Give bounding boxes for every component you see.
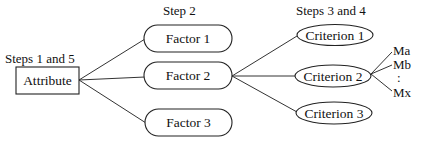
edge-attribute-factor-2 (79, 77, 145, 80)
edge-attribute-factor-1 (79, 39, 145, 80)
edge-factor-2-criterion-1 (232, 36, 297, 76)
factor-1-label: Factor 1 (166, 31, 211, 46)
criterion-node-2: Criterion 2 (295, 65, 371, 87)
measure-mb: Mb (393, 57, 411, 72)
hierarchy-diagram: Steps 1 and 5 Step 2 Steps 3 and 4 Attri… (0, 0, 426, 144)
step-label-criteria: Steps 3 and 4 (296, 3, 366, 18)
step-label-attribute: Steps 1 and 5 (5, 51, 75, 66)
edge-criterion-2-mb (371, 65, 392, 74)
edge-criterion-2-ma (371, 52, 392, 74)
criterion-1-label: Criterion 1 (306, 28, 365, 43)
measure-ellipsis: : (397, 70, 401, 85)
measure-ma: Ma (393, 43, 411, 58)
factor-node-2: Factor 2 (144, 62, 232, 89)
criterion-node-3: Criterion 3 (296, 102, 372, 124)
step-label-factors: Step 2 (163, 3, 196, 18)
edge-factor-2-criterion-3 (232, 76, 297, 112)
factor-2-label: Factor 2 (166, 68, 211, 83)
criterion-2-label: Criterion 2 (304, 69, 363, 84)
attribute-node: Attribute (16, 67, 79, 94)
edge-criterion-2-mx (371, 74, 392, 91)
factor-node-1: Factor 1 (144, 25, 232, 52)
criterion-3-label: Criterion 3 (305, 106, 364, 121)
factor-3-label: Factor 3 (166, 115, 211, 130)
criterion-node-1: Criterion 1 (297, 25, 373, 46)
factor-node-3: Factor 3 (145, 109, 232, 136)
measure-mx: Mx (393, 85, 412, 100)
attribute-label: Attribute (23, 73, 72, 88)
edge-attribute-factor-3 (79, 80, 146, 123)
